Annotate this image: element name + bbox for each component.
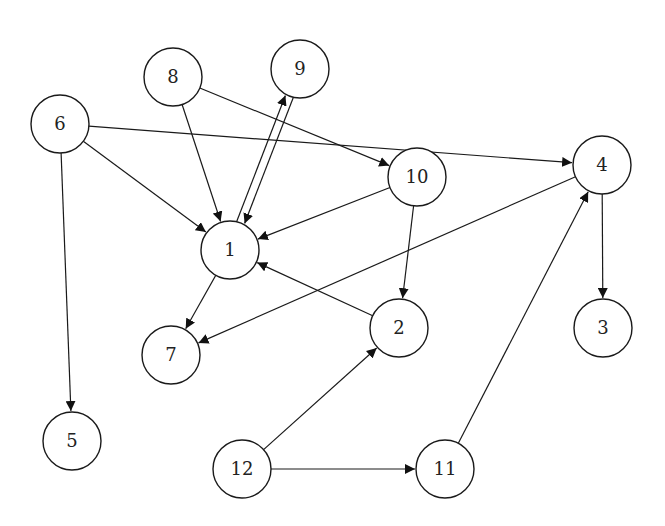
node-label: 4 bbox=[596, 154, 607, 175]
node-label: 8 bbox=[167, 66, 178, 87]
nodes-layer: 123456789101112 bbox=[31, 40, 632, 498]
directed-graph: 123456789101112 bbox=[0, 0, 665, 526]
node-label: 11 bbox=[434, 458, 457, 479]
edge-6-to-1 bbox=[83, 141, 206, 232]
node-label: 5 bbox=[66, 430, 77, 451]
node-label: 10 bbox=[406, 166, 429, 187]
edge-6-to-5 bbox=[61, 153, 71, 411]
node-label: 7 bbox=[165, 344, 176, 365]
node-1: 1 bbox=[201, 221, 259, 279]
edge-1-to-7 bbox=[186, 275, 216, 329]
node-label: 2 bbox=[393, 317, 404, 338]
node-6: 6 bbox=[31, 95, 89, 153]
edge-10-to-1 bbox=[258, 188, 390, 240]
node-label: 3 bbox=[597, 317, 608, 338]
directed-graph-canvas: 123456789101112 bbox=[0, 0, 665, 526]
edge-4-to-3 bbox=[602, 194, 603, 298]
node-label: 9 bbox=[294, 58, 305, 79]
edge-11-to-4 bbox=[458, 192, 588, 444]
edge-8-to-10 bbox=[200, 88, 389, 166]
node-10: 10 bbox=[388, 148, 446, 206]
node-7: 7 bbox=[142, 326, 200, 384]
node-4: 4 bbox=[573, 136, 631, 194]
node-label: 12 bbox=[231, 458, 254, 479]
node-9: 9 bbox=[271, 40, 329, 98]
node-3: 3 bbox=[574, 299, 632, 357]
node-11: 11 bbox=[416, 440, 474, 498]
edges-layer bbox=[61, 88, 603, 469]
node-label: 1 bbox=[224, 239, 235, 260]
node-5: 5 bbox=[43, 412, 101, 470]
node-label: 6 bbox=[54, 113, 65, 134]
edge-2-to-1 bbox=[257, 263, 373, 316]
node-12: 12 bbox=[213, 440, 271, 498]
edge-6-to-4 bbox=[89, 126, 572, 163]
edge-12-to-2 bbox=[264, 348, 377, 450]
edge-8-to-1 bbox=[182, 105, 221, 222]
node-8: 8 bbox=[144, 48, 202, 106]
node-2: 2 bbox=[370, 299, 428, 357]
edge-1-to-9 bbox=[237, 96, 286, 222]
